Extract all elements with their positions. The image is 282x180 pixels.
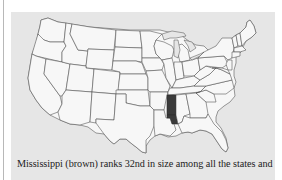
state-maine <box>240 20 256 46</box>
state-montana <box>70 24 116 51</box>
state-utah <box>66 64 94 92</box>
state-florida <box>178 114 228 152</box>
state-north-dakota <box>115 30 142 48</box>
us-map <box>0 0 282 160</box>
state-south-dakota <box>113 47 142 62</box>
state-connecticut <box>232 52 240 58</box>
state-wyoming <box>86 49 114 70</box>
state-iowa <box>142 58 164 71</box>
state-arizona <box>58 90 92 125</box>
state-mississippi <box>167 95 176 115</box>
state-kansas <box>118 74 148 90</box>
figure-caption: Mississippi (brown) ranks 32nd in size a… <box>17 158 279 169</box>
state-new-mexico <box>90 92 116 123</box>
